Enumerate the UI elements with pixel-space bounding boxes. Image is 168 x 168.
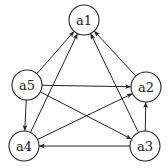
edge-a4-to-a2 [38,94,133,140]
nodes-layer: a1a2a3a4a5 [9,5,161,161]
node-label: a4 [16,139,32,154]
node-label: a5 [19,78,35,93]
node-label: a3 [137,139,153,154]
edges-layer [25,31,146,146]
node-label: a2 [138,80,154,95]
node-a2: a2 [131,72,161,102]
edge-a5-to-a4 [25,100,27,131]
node-a1: a1 [69,5,99,35]
directed-graph: a1a2a3a4a5 [0,0,168,168]
node-label: a1 [76,13,92,28]
node-a3: a3 [130,131,160,161]
node-a5: a5 [12,70,42,100]
edge-a5-to-a2 [42,85,131,86]
node-a4: a4 [9,131,39,161]
